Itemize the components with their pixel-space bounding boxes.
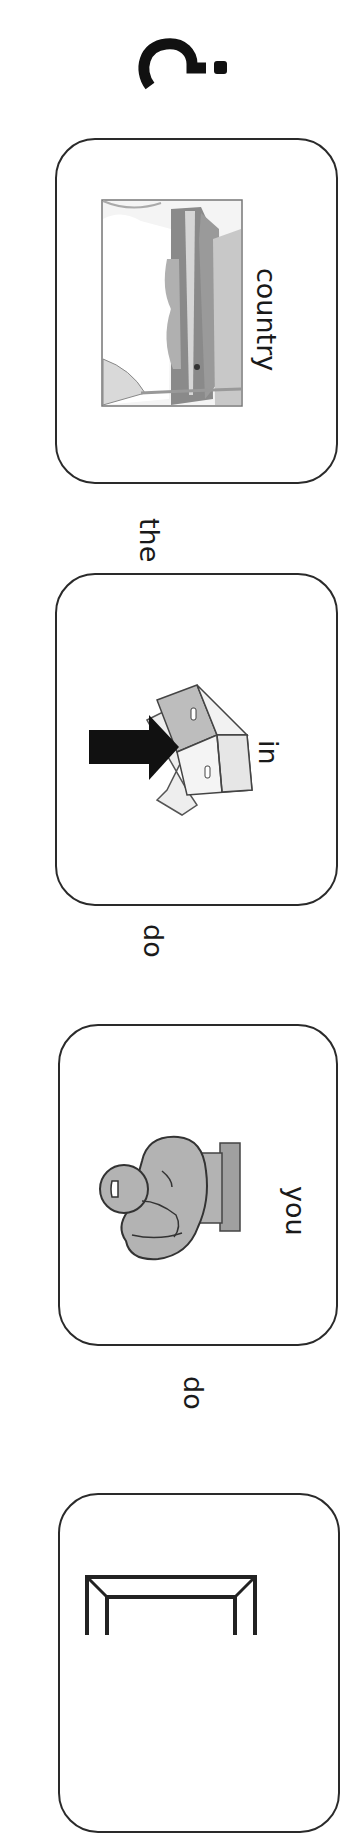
symbol-card-partial [58,1493,340,1833]
connector-word-the: the [136,518,163,562]
arrow-into-box-icon [87,680,257,820]
card-label-you: you [282,1186,309,1236]
card-label-in: in [255,740,282,765]
symbol-card-country: country [55,138,338,484]
frame-box-icon [85,1575,257,1635]
countryside-landscape-icon [101,199,243,407]
card-label-country: country [253,268,280,371]
pointing-hand-icon [98,1131,248,1266]
symbol-card-in: in [55,573,338,906]
question-mark-icon [136,34,232,98]
symbol-card-you: you [58,1024,338,1346]
connector-word-do-2: do [180,1376,207,1410]
connector-word-do-1: do [140,924,167,958]
